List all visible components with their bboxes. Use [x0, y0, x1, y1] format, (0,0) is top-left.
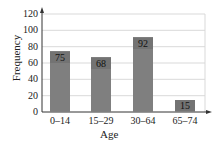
- x-tick: 65–74: [165, 115, 205, 126]
- y-tick: 120: [14, 8, 38, 19]
- y-tick: 20: [14, 90, 38, 101]
- x-tick: 15–29: [81, 115, 121, 126]
- bar-value-label: 15: [175, 100, 195, 111]
- x-axis-arrow-icon: [206, 110, 212, 114]
- bar-value-label: 75: [50, 52, 70, 63]
- y-tick: 0: [14, 106, 38, 117]
- x-axis-label: Age: [100, 128, 118, 140]
- bar-chart: 75 68 92 15 0 20 40 60 80 100 120 0–14 1…: [0, 0, 216, 146]
- x-tick: 30–64: [123, 115, 163, 126]
- y-axis-label: Frequency: [10, 28, 22, 88]
- bar-value-label: 68: [91, 58, 111, 69]
- bar-value-label: 92: [133, 38, 153, 49]
- x-tick: 0–14: [40, 115, 80, 126]
- y-axis-arrow-icon: [40, 7, 44, 13]
